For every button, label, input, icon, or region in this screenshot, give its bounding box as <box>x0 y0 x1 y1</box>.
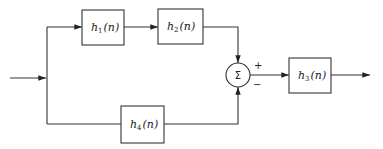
block-diagram: h1(n) h2(n) h3(n) h4(n) Σ + − <box>0 0 383 149</box>
plus-sign: + <box>254 60 262 71</box>
h4-label: h4(n) <box>130 118 158 132</box>
h3-label: h3(n) <box>298 69 326 83</box>
h4-to-sum-line <box>164 87 238 124</box>
h2-label: h2(n) <box>167 20 195 34</box>
h2-to-sum-line <box>203 27 238 63</box>
h1-label: h1(n) <box>91 21 119 35</box>
minus-sign: − <box>253 79 261 90</box>
sigma-symbol: Σ <box>235 70 241 81</box>
